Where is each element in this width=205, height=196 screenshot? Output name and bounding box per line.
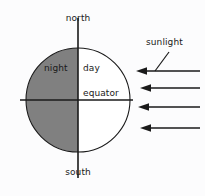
label-north: north — [66, 13, 91, 23]
arrowhead-icon — [140, 84, 151, 92]
diagram-canvas: north south night day equator sunlight — [0, 0, 205, 196]
arrowhead-icon — [138, 103, 149, 111]
earth-sunlight-diagram — [0, 0, 205, 196]
sunlight-ray-2 — [140, 84, 200, 92]
sunlight-leader-line — [155, 52, 169, 71]
label-night: night — [44, 63, 68, 73]
label-south: south — [65, 167, 91, 177]
arrowhead-icon — [140, 124, 151, 132]
sunlight-ray-3 — [138, 103, 200, 111]
label-equator: equator — [83, 88, 119, 98]
label-sunlight: sunlight — [146, 37, 183, 47]
sunlight-ray-1 — [136, 67, 200, 75]
arrowhead-icon — [136, 67, 147, 75]
sunlight-ray-4 — [140, 124, 200, 132]
label-day: day — [83, 63, 100, 73]
